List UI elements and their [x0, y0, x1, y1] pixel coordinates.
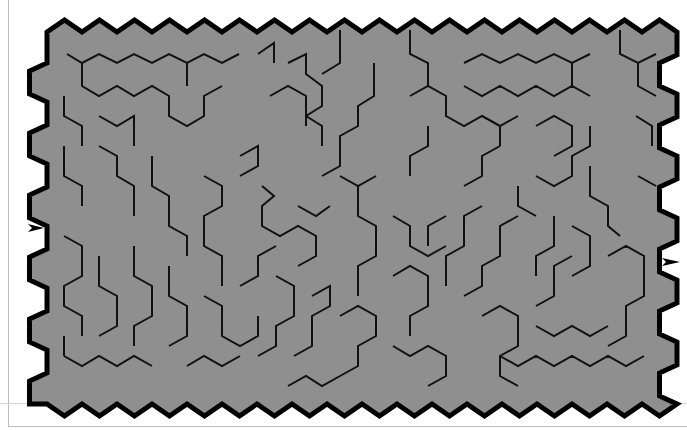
- exit-arrow-icon: [662, 258, 680, 266]
- maze-border: [30, 20, 678, 416]
- hex-maze: [0, 0, 687, 430]
